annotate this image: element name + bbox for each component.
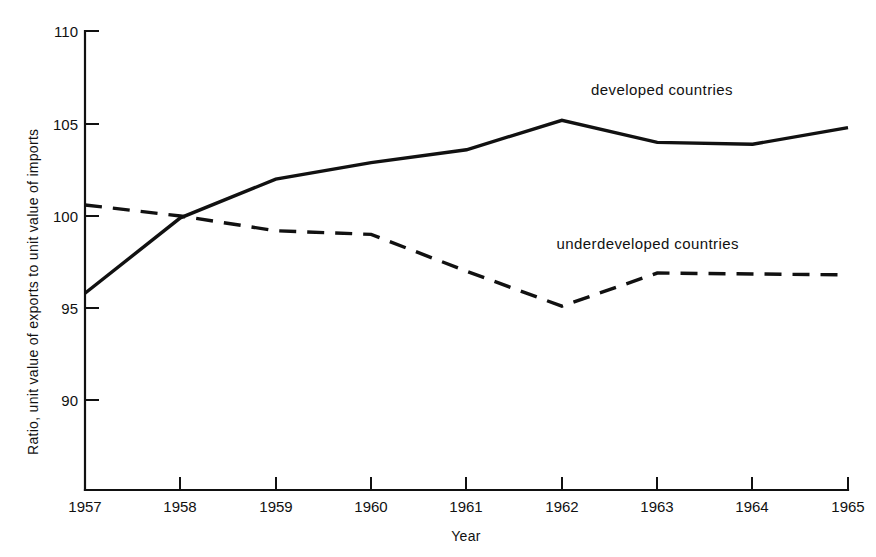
x-axis-ticks: 1957 1958 1959 1960 1961 1962 1963 1964 … xyxy=(68,477,864,515)
series-label-underdeveloped-countries: underdeveloped countries xyxy=(557,235,739,252)
line-chart: Ratio, unit value of exports to unit val… xyxy=(0,0,876,557)
y-tick-label-95: 95 xyxy=(61,300,78,317)
series-label-developed-countries: developed countries xyxy=(591,81,733,98)
x-tick-label-1964: 1964 xyxy=(735,498,768,515)
y-axis-ticks: 110 105 100 95 90 xyxy=(53,23,99,409)
series-line-developed-countries xyxy=(85,120,848,293)
x-tick-label-1959: 1959 xyxy=(259,498,292,515)
chart-page: Ratio, unit value of exports to unit val… xyxy=(0,0,876,557)
y-tick-label-105: 105 xyxy=(53,116,78,133)
y-tick-label-100: 100 xyxy=(53,208,78,225)
series-line-underdeveloped-countries xyxy=(85,205,848,306)
y-tick-label-90: 90 xyxy=(61,392,78,409)
x-axis-title: Year xyxy=(451,528,481,544)
x-tick-label-1961: 1961 xyxy=(449,498,482,515)
x-tick-label-1958: 1958 xyxy=(163,498,196,515)
x-tick-label-1965: 1965 xyxy=(831,498,864,515)
x-tick-label-1963: 1963 xyxy=(640,498,673,515)
x-tick-label-1960: 1960 xyxy=(354,498,387,515)
y-tick-label-110: 110 xyxy=(54,23,78,40)
x-tick-label-1962: 1962 xyxy=(545,498,578,515)
y-axis-title: Ratio, unit value of exports to unit val… xyxy=(25,129,41,455)
x-tick-label-1957: 1957 xyxy=(68,498,101,515)
